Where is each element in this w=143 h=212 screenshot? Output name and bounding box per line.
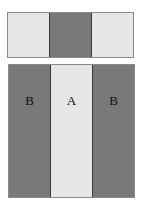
bottom-panel-middle: A [50,65,92,197]
top-panel-left [8,13,49,57]
top-strip [7,12,134,58]
panel-label-middle: A [51,94,92,107]
panel-label-left: B [9,94,50,107]
bottom-panel-left: B [9,65,50,197]
bottom-strip: B A B [8,64,135,198]
panel-label-right: B [93,94,134,107]
top-panel-middle [49,13,91,57]
bottom-panel-right: B [92,65,134,197]
top-panel-right [91,13,133,57]
